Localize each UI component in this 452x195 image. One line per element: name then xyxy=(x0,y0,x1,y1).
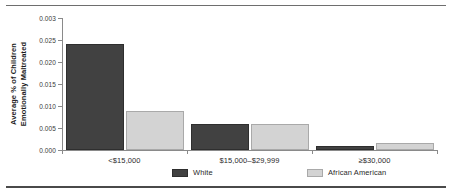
x-tick-label: <$15,000 xyxy=(108,156,140,165)
y-tick-label: 0.000 xyxy=(39,147,56,154)
y-tick-label: 0.010 xyxy=(39,103,56,110)
legend-item[interactable]: African American xyxy=(307,168,386,177)
bar xyxy=(126,111,184,150)
x-axis-line xyxy=(62,150,437,151)
legend-item[interactable]: White xyxy=(172,168,213,177)
y-tick-mark xyxy=(58,106,62,107)
bar xyxy=(316,146,374,150)
chart-figure: Average % of Children Emotionally Maltre… xyxy=(0,0,452,195)
y-axis-title-line-1: Average % of Children xyxy=(9,43,18,125)
bar xyxy=(66,44,124,150)
y-tick-mark xyxy=(58,84,62,85)
y-tick-mark xyxy=(58,128,62,129)
y-axis-title: Average % of Children Emotionally Maltre… xyxy=(6,18,30,150)
bottom-divider-rule xyxy=(6,186,446,188)
x-tick-mark xyxy=(312,150,313,154)
y-tick-label: 0.020 xyxy=(39,59,56,66)
plot-area: 0.0000.0050.0100.0150.0200.0250.003 <$15… xyxy=(62,18,437,150)
top-divider-rule xyxy=(6,5,446,6)
x-tick-mark xyxy=(437,150,438,154)
y-tick-mark xyxy=(58,40,62,41)
bar xyxy=(376,143,434,150)
x-tick-label: $15,000–$29,999 xyxy=(220,156,280,165)
x-tick-mark xyxy=(187,150,188,154)
y-axis-title-line-2: Emotionally Maltreated xyxy=(19,42,28,126)
legend-label: White xyxy=(193,168,213,177)
bar xyxy=(251,124,309,150)
y-axis-line xyxy=(62,18,63,150)
y-tick-label: 0.003 xyxy=(39,15,56,22)
y-tick-mark xyxy=(58,62,62,63)
y-tick-mark xyxy=(58,18,62,19)
y-tick-label: 0.015 xyxy=(39,81,56,88)
x-tick-label: ≥$30,000 xyxy=(358,156,390,165)
y-tick-label: 0.005 xyxy=(39,125,56,132)
x-tick-mark xyxy=(62,150,63,154)
legend-swatch xyxy=(172,169,188,177)
bar xyxy=(191,124,249,150)
y-tick-label: 0.025 xyxy=(39,37,56,44)
legend-swatch xyxy=(307,169,323,177)
chart-legend: WhiteAfrican American xyxy=(62,168,437,180)
legend-label: African American xyxy=(328,168,386,177)
